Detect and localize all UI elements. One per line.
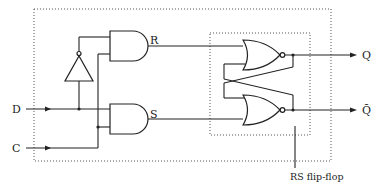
nor-gate-q <box>243 40 285 70</box>
not-gate <box>65 37 110 81</box>
q-output-wire <box>285 53 357 58</box>
signal-label-r: R <box>150 34 159 47</box>
signal-label-s: S <box>150 108 158 121</box>
and-gate-r <box>110 31 243 61</box>
output-label-qbar: Q̄ <box>362 104 371 117</box>
qbar-output-wire <box>285 108 357 113</box>
input-label-d: D <box>12 103 21 116</box>
input-label-c: C <box>12 142 20 155</box>
d-latch-diagram: D C R S Q Q̄ RS flip-flop <box>0 0 376 188</box>
d-input-wire <box>26 107 110 112</box>
rs-flip-flop-caption: RS flip-flop <box>290 171 343 182</box>
d-to-inverter-wire <box>77 81 80 111</box>
c-input-wire <box>26 54 110 151</box>
and-gate-s <box>110 104 243 134</box>
nor-gate-qbar <box>243 95 285 125</box>
output-label-q: Q <box>362 49 371 62</box>
